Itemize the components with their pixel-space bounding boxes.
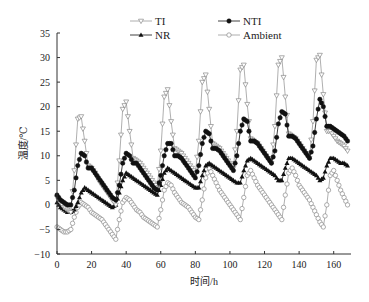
data-point-nti xyxy=(309,150,313,154)
data-point-ambient xyxy=(197,217,201,221)
data-point-nti xyxy=(307,156,311,160)
data-point-ti xyxy=(309,138,314,142)
data-point-nti xyxy=(271,155,275,159)
data-point-nti xyxy=(323,114,327,118)
x-tick-label: 140 xyxy=(292,259,307,270)
data-point-ti xyxy=(82,139,87,143)
data-point-nti xyxy=(193,176,197,180)
data-point-nti xyxy=(274,135,278,139)
data-point-nti xyxy=(74,176,78,180)
data-point-nti xyxy=(121,161,125,165)
data-point-nti xyxy=(162,154,166,158)
legend-item-ambient: Ambient xyxy=(218,29,282,41)
data-point-nr xyxy=(283,165,288,169)
data-point-nti xyxy=(235,154,239,158)
data-point-ambient xyxy=(345,203,349,207)
data-point-nr xyxy=(281,172,286,176)
legend-marker-ti xyxy=(139,19,144,23)
x-tick-label: 60 xyxy=(156,259,166,270)
y-tick-label: 10 xyxy=(40,150,50,161)
plot-area xyxy=(55,53,351,241)
x-tick-label: 120 xyxy=(257,259,272,270)
data-point-nti xyxy=(316,107,320,111)
data-point-nti xyxy=(200,141,204,145)
data-point-ti xyxy=(245,102,250,106)
data-point-ambient xyxy=(198,208,202,212)
data-point-ti xyxy=(127,129,132,133)
y-tick-label: 20 xyxy=(40,101,50,112)
data-point-ti xyxy=(312,89,317,93)
data-point-ti xyxy=(169,120,174,124)
data-point-nti xyxy=(233,161,237,165)
data-point-nti xyxy=(283,112,287,116)
data-point-ti xyxy=(160,122,165,126)
data-point-ti xyxy=(208,125,213,129)
data-point-nti xyxy=(157,181,161,185)
data-point-ti xyxy=(274,94,279,98)
data-point-ambient xyxy=(157,216,161,220)
data-point-nti xyxy=(247,129,251,133)
data-point-nti xyxy=(236,141,240,145)
legend-marker-nti xyxy=(227,19,231,23)
data-point-ti xyxy=(207,107,212,111)
data-point-ti xyxy=(205,90,210,94)
data-point-nti xyxy=(164,147,168,151)
data-point-nti xyxy=(76,163,80,167)
data-point-nti xyxy=(314,117,318,121)
data-point-nti xyxy=(312,130,316,134)
x-tick-label: 20 xyxy=(87,259,97,270)
data-point-ambient xyxy=(70,221,74,225)
data-point-ti xyxy=(319,73,324,77)
data-point-ambient xyxy=(333,173,337,177)
data-point-ti xyxy=(283,95,288,99)
series-nr xyxy=(55,156,351,214)
data-point-ambient xyxy=(119,209,123,213)
data-point-nti xyxy=(273,149,277,153)
legend-label: NTI xyxy=(243,15,262,27)
data-point-nr xyxy=(200,173,205,177)
data-point-ambient xyxy=(155,225,159,229)
y-tick-label: −10 xyxy=(34,249,50,260)
data-point-ambient xyxy=(69,227,73,231)
data-point-ambient xyxy=(335,178,339,182)
data-point-nti xyxy=(169,141,173,145)
data-point-nti xyxy=(155,188,159,192)
data-point-ambient xyxy=(280,217,284,221)
data-point-nti xyxy=(72,188,76,192)
legend-label: NR xyxy=(155,29,171,41)
data-point-ti xyxy=(233,148,238,152)
x-tick-label: 40 xyxy=(121,259,131,270)
data-point-ambient xyxy=(72,215,76,219)
y-tick-label: 0 xyxy=(45,199,50,210)
data-point-nr xyxy=(77,195,82,199)
data-point-nti xyxy=(198,152,202,156)
data-point-ambient xyxy=(285,182,289,186)
legend: TINTINRAmbient xyxy=(130,15,282,41)
y-tick-label: 15 xyxy=(40,126,50,137)
data-point-ambient xyxy=(293,173,297,177)
data-point-nr xyxy=(285,161,290,165)
data-point-ti xyxy=(243,83,248,87)
data-point-ti xyxy=(271,143,276,147)
data-point-ti xyxy=(167,104,172,108)
x-tick-label: 80 xyxy=(190,259,200,270)
temperature-chart: −10−505101520253035020406080100120140160… xyxy=(0,0,369,302)
data-point-nti xyxy=(197,163,201,167)
data-point-ambient xyxy=(242,195,246,199)
data-point-nti xyxy=(269,161,273,165)
data-point-ambient xyxy=(332,168,336,172)
data-point-ambient xyxy=(114,237,118,241)
data-point-nr xyxy=(198,179,203,183)
y-tick-label: −5 xyxy=(39,224,50,235)
data-point-ti xyxy=(118,133,123,137)
data-point-nti xyxy=(115,190,119,194)
data-point-nti xyxy=(160,163,164,167)
x-tick-label: 0 xyxy=(55,259,60,270)
data-point-nti xyxy=(84,160,88,164)
data-point-ti xyxy=(80,127,85,131)
data-point-ambient xyxy=(323,214,327,218)
data-point-ambient xyxy=(240,206,244,210)
data-point-nti xyxy=(321,104,325,108)
data-point-ambient xyxy=(325,203,329,207)
data-point-ambient xyxy=(159,208,163,212)
